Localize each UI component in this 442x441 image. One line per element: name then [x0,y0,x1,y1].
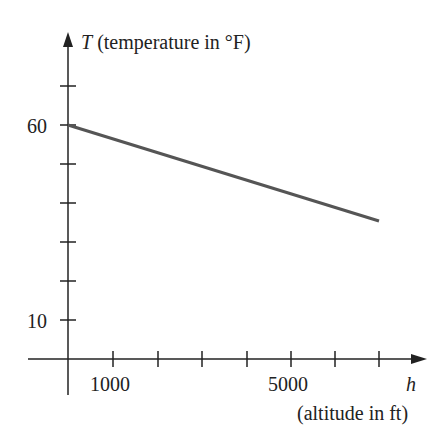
x-label-text: (altitude in ft) [297,403,408,423]
x-symbol: h [406,374,416,394]
y-axis-arrow-icon [63,32,73,47]
y-label-text: (temperature in °F) [97,31,251,53]
x-axis-arrow-icon [411,354,427,364]
temperature-line [68,125,379,221]
chart-canvas [0,0,442,441]
x-tick-label-1000: 1000 [90,374,130,394]
y-tick-label-60: 60 [27,116,47,136]
y-axis-title: T (temperature in °F) [81,32,251,52]
y-symbol: T [81,31,92,53]
x-tick-label-5000: 5000 [268,374,308,394]
y-tick-label-10: 10 [27,311,47,331]
